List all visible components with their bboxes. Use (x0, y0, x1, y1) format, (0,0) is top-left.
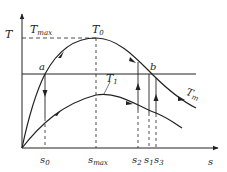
point-a-label: a (39, 61, 45, 72)
tick-s2: s2 (132, 154, 142, 167)
y-axis-label: T (5, 28, 14, 41)
tick-smax: smax (88, 154, 108, 167)
s0-down-arrow (43, 90, 48, 97)
lower-curve-t1 (22, 94, 182, 148)
s2-up-arrow (136, 83, 141, 90)
x-axis-label: s (208, 156, 213, 167)
t-m-label: Tm (184, 86, 201, 103)
tick-s3: s3 (154, 154, 164, 167)
s3-up-arrow (154, 94, 159, 101)
t-max-label: Tmax (30, 23, 52, 37)
t-zero-label: T0 (92, 23, 104, 37)
upper-curve-t0 (22, 38, 196, 148)
point-b-label: b (150, 61, 156, 72)
lower-curve-arrow-rising (54, 110, 61, 116)
tick-s1: s1 (144, 154, 154, 167)
tick-s0: s0 (40, 154, 50, 167)
trajectory-diagram: T s Tmax T0 Tm T1 a b s0 (0, 0, 227, 172)
